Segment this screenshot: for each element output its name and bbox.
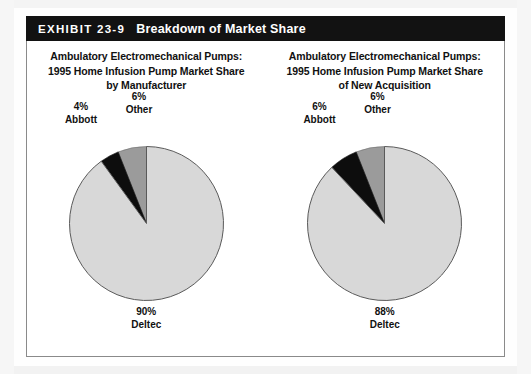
label-other-left-name: Other [113,104,165,117]
label-other-right-value: 6% [352,91,404,104]
label-deltec-right: 88% Deltec [345,306,425,331]
chart-panel-by-manufacturer: Ambulatory Electromechanical Pumps: 1995… [27,42,266,356]
scan-edge-top [0,0,531,8]
pie-chart-new-acquisition [306,145,463,302]
label-other-left-value: 6% [113,91,165,104]
label-other-right: 6% Other [352,91,404,116]
pie-slice-deltec-right [308,147,462,301]
pie-chart-by-manufacturer [68,145,225,302]
label-deltec-left-name: Deltec [106,319,186,332]
label-abbott-right-value: 6% [294,101,346,114]
pie-slice-deltec-left [69,147,223,301]
label-deltec-left: 90% Deltec [106,306,186,331]
label-abbott-left-value: 4% [55,101,107,114]
chart-title-right-line1: Ambulatory Electromechanical Pumps: [266,49,505,64]
label-deltec-right-value: 88% [345,306,425,319]
label-deltec-left-value: 90% [106,306,186,319]
label-abbott-left: 4% Abbott [55,101,107,126]
label-abbott-right-name: Abbott [294,114,346,127]
chart-title-right: Ambulatory Electromechanical Pumps: 1995… [266,49,505,93]
charts-area: Ambulatory Electromechanical Pumps: 1995… [27,42,504,356]
exhibit-title: Breakdown of Market Share [136,22,306,36]
exhibit-number: EXHIBIT 23-9 [38,23,125,35]
chart-title-right-line2: 1995 Home Infusion Pump Market Share [266,64,505,79]
scan-edge-right [517,0,531,374]
label-other-right-name: Other [352,104,404,117]
chart-title-left-line2: 1995 Home Infusion Pump Market Share [27,64,266,79]
label-abbott-left-name: Abbott [55,114,107,127]
label-abbott-right: 6% Abbott [294,101,346,126]
page-canvas: EXHIBIT 23-9 Breakdown of Market Share A… [0,0,531,374]
scan-edge-bottom [0,366,531,374]
chart-panel-new-acquisition: Ambulatory Electromechanical Pumps: 1995… [266,42,505,356]
pie-svg-left [68,145,225,302]
label-other-left: 6% Other [113,91,165,116]
exhibit-header-bar: EXHIBIT 23-9 Breakdown of Market Share [26,16,505,41]
pie-svg-right [306,145,463,302]
scan-edge-left [0,0,14,374]
chart-title-left-line1: Ambulatory Electromechanical Pumps: [27,49,266,64]
label-deltec-right-name: Deltec [345,319,425,332]
chart-title-left: Ambulatory Electromechanical Pumps: 1995… [27,49,266,93]
